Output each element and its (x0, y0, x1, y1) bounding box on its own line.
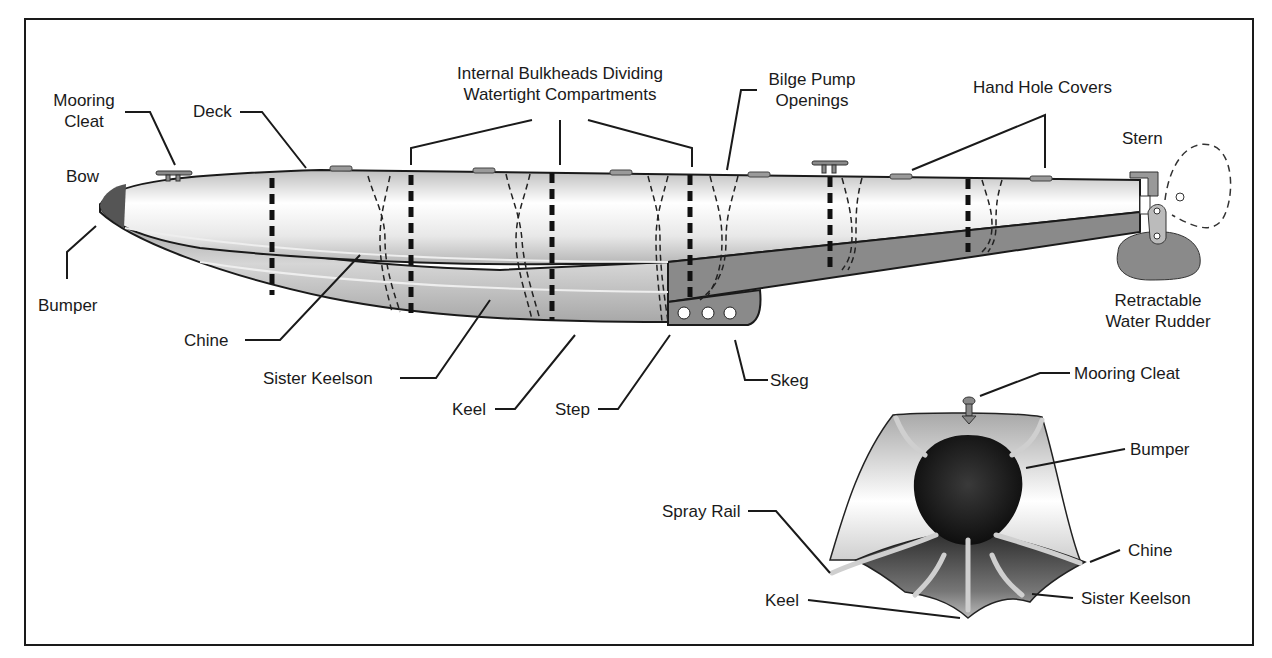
label-water-rudder-line2: Water Rudder (1088, 311, 1228, 332)
label-front-keel: Keel (765, 590, 799, 611)
label-mooring-cleat-line2: Cleat (44, 111, 124, 132)
front-view-float (830, 397, 1085, 618)
label-mooring-cleat: Mooring Cleat (44, 90, 124, 132)
label-front-mooring-cleat: Mooring Cleat (1074, 363, 1180, 384)
label-bulkheads: Internal Bulkheads Dividing Watertight C… (410, 63, 710, 105)
label-keel: Keel (452, 399, 486, 420)
label-step: Step (555, 399, 590, 420)
label-bulkheads-line1: Internal Bulkheads Dividing (410, 63, 710, 84)
label-water-rudder-line1: Retractable (1088, 290, 1228, 311)
label-chine: Chine (184, 330, 228, 351)
label-spray-rail: Spray Rail (662, 501, 740, 522)
label-sister-keelson: Sister Keelson (263, 368, 373, 389)
label-front-bumper: Bumper (1130, 439, 1190, 460)
label-water-rudder: Retractable Water Rudder (1088, 290, 1228, 332)
label-stern: Stern (1122, 128, 1163, 149)
label-bulkheads-line2: Watertight Compartments (410, 84, 710, 105)
label-bumper: Bumper (38, 295, 98, 316)
label-front-sister-keelson: Sister Keelson (1081, 588, 1191, 609)
label-bilge-pump-line2: Openings (752, 90, 872, 111)
label-bow: Bow (66, 166, 99, 187)
label-skeg: Skeg (770, 370, 809, 391)
label-deck: Deck (193, 101, 232, 122)
label-hand-hole-covers: Hand Hole Covers (973, 77, 1112, 98)
label-bilge-pump: Bilge Pump Openings (752, 69, 872, 111)
label-mooring-cleat-line1: Mooring (44, 90, 124, 111)
label-front-chine: Chine (1128, 540, 1172, 561)
label-bilge-pump-line1: Bilge Pump (752, 69, 872, 90)
side-view-float (100, 144, 1231, 325)
side-mooring-cleat-mid (812, 161, 848, 173)
